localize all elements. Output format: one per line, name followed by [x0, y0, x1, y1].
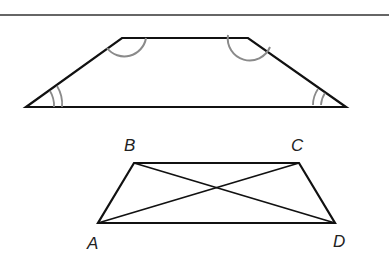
vertex-label-b: B	[124, 136, 135, 155]
geometry-diagram: B C A D	[0, 0, 389, 274]
angle-arc-top-left	[107, 38, 146, 56]
vertex-label-c: C	[291, 136, 304, 155]
angle-arc-bottom-left-1	[50, 91, 54, 107]
angle-arc-bottom-right-2	[321, 93, 325, 105]
angle-arc-bottom-right-1	[313, 89, 318, 105]
vertex-label-d: D	[333, 232, 345, 251]
trapezoid-1	[26, 35, 346, 107]
angle-arc-bottom-left-2	[57, 86, 62, 107]
trapezoid-2: B C A D	[86, 136, 345, 253]
vertex-label-a: A	[86, 234, 98, 253]
